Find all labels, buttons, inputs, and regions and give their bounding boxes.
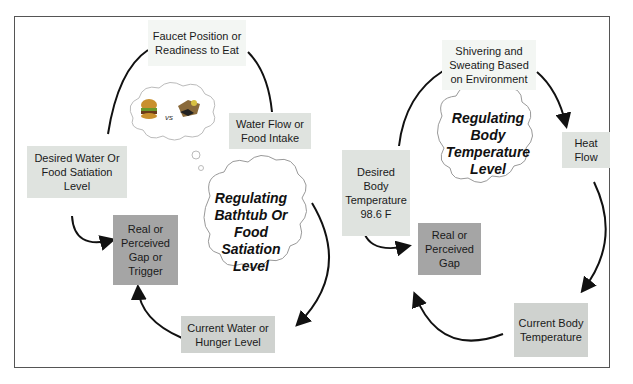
arrow-current-to-gap bbox=[138, 288, 182, 338]
node-heat-flow: Heat Flow bbox=[562, 132, 610, 168]
vs-label: vs bbox=[165, 113, 173, 122]
arrow-action-to-flow bbox=[248, 52, 272, 112]
node-current-body-temp: Current Body Temperature bbox=[514, 303, 588, 357]
node-gap: Real or Perceived Gap bbox=[418, 223, 481, 275]
arrow-flow-to-current-r bbox=[583, 182, 606, 290]
arrow-desired-to-gap bbox=[72, 216, 112, 242]
cloud-right-line: Level bbox=[440, 161, 536, 178]
cloud-right-line: Regulating bbox=[440, 110, 536, 127]
cloud-right-title: Regulating Body Temperature Level bbox=[440, 110, 536, 178]
arrow-action-to-flow-r bbox=[537, 72, 566, 125]
node-water-flow: Water Flow or Food Intake bbox=[229, 113, 311, 149]
cloud-left-line: Food bbox=[206, 224, 296, 241]
arrow-current-to-gap-r bbox=[415, 295, 503, 341]
node-gap-trigger: Real or Perceived Gap or Trigger bbox=[113, 215, 178, 285]
node-desired-level: Desired Water Or Food Satiation Level bbox=[27, 146, 127, 198]
node-shivering-sweating: Shivering and Sweating Based on Environm… bbox=[442, 40, 536, 90]
arrow-desired-to-action-r bbox=[399, 71, 443, 146]
hamburger-icon bbox=[141, 99, 157, 119]
node-desired-body-temp: Desired Body Temperature 98.6 F bbox=[342, 150, 410, 236]
thought-bubble-food bbox=[130, 82, 215, 170]
cloud-right-line: Body bbox=[440, 127, 536, 144]
cloud-left-title: Regulating Bathtub Or Food Satiation Lev… bbox=[206, 190, 296, 275]
cloud-left-line: Regulating bbox=[206, 190, 296, 207]
node-current-level: Current Water or Hunger Level bbox=[181, 316, 275, 353]
cloud-left-line: Level bbox=[206, 258, 296, 275]
node-faucet-position: Faucet Position or Readiness to Eat bbox=[148, 20, 246, 66]
cloud-right-line: Temperature bbox=[440, 144, 536, 161]
cloud-left-line: Bathtub Or bbox=[206, 207, 296, 224]
cloud-left-line: Satiation bbox=[206, 241, 296, 258]
